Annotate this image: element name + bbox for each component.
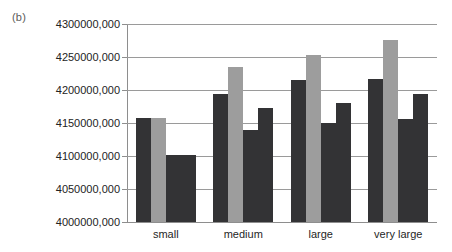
bar xyxy=(368,79,383,222)
x-axis-tick-label: small xyxy=(153,228,179,240)
y-axis-tick-mark xyxy=(122,24,127,25)
y-axis-tick-label: 4200000,000 xyxy=(0,84,120,96)
y-axis-tick-mark xyxy=(122,123,127,124)
y-axis-tick-label: 4000000,000 xyxy=(0,216,120,228)
bar xyxy=(243,130,258,222)
y-axis-tick-mark xyxy=(122,90,127,91)
y-axis-tick-mark xyxy=(122,57,127,58)
bar xyxy=(181,155,196,222)
plot-area xyxy=(127,24,437,222)
y-axis-tick-mark xyxy=(122,222,127,223)
y-axis-tick-labels: 4300000,0004250000,0004200000,0004150000… xyxy=(0,0,120,252)
y-axis-tick-label: 4100000,000 xyxy=(0,150,120,162)
bar xyxy=(306,55,321,222)
bar xyxy=(151,118,166,222)
y-axis-tick-label: 4250000,000 xyxy=(0,51,120,63)
bar-chart-figure: (b) 4300000,0004250000,0004200000,000415… xyxy=(0,0,452,252)
bar xyxy=(291,80,306,222)
bar xyxy=(136,118,151,222)
x-axis-tick-label: medium xyxy=(224,228,263,240)
bar xyxy=(166,155,181,222)
bar xyxy=(213,94,228,222)
y-axis-tick-mark xyxy=(122,156,127,157)
x-axis-tick-label: very large xyxy=(374,228,422,240)
bar xyxy=(336,103,351,222)
x-axis-tick-label: large xyxy=(309,228,333,240)
bar xyxy=(398,119,413,222)
bar xyxy=(228,67,243,222)
y-axis-tick-label: 4300000,000 xyxy=(0,18,120,30)
bar xyxy=(321,123,336,222)
y-axis-tick-label: 4050000,000 xyxy=(0,183,120,195)
y-axis-tick-mark xyxy=(122,189,127,190)
gridline xyxy=(127,222,437,223)
x-axis-tick-labels: smallmediumlargevery large xyxy=(127,228,437,248)
bar xyxy=(258,108,273,222)
bar xyxy=(383,40,398,222)
y-axis-tick-label: 4150000,000 xyxy=(0,117,120,129)
bar xyxy=(413,94,428,222)
gridline xyxy=(127,24,437,25)
